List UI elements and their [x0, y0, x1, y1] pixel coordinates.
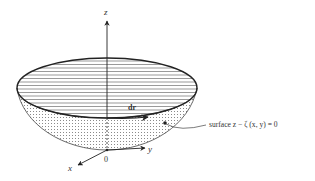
x-axis [78, 150, 107, 165]
origin-label: 0 [104, 155, 108, 164]
surface-equation-label: surface z − ζ (x, y) = 0 [209, 120, 278, 129]
dr-label: dr [128, 103, 136, 112]
origin-point [106, 149, 109, 152]
surface-diagram: z y x 0 dr surface z − ζ (x, y) = 0 [0, 0, 315, 181]
z-axis-label: z [103, 7, 108, 17]
y-axis-label: y [147, 144, 152, 154]
x-axis-label: x [67, 163, 72, 173]
